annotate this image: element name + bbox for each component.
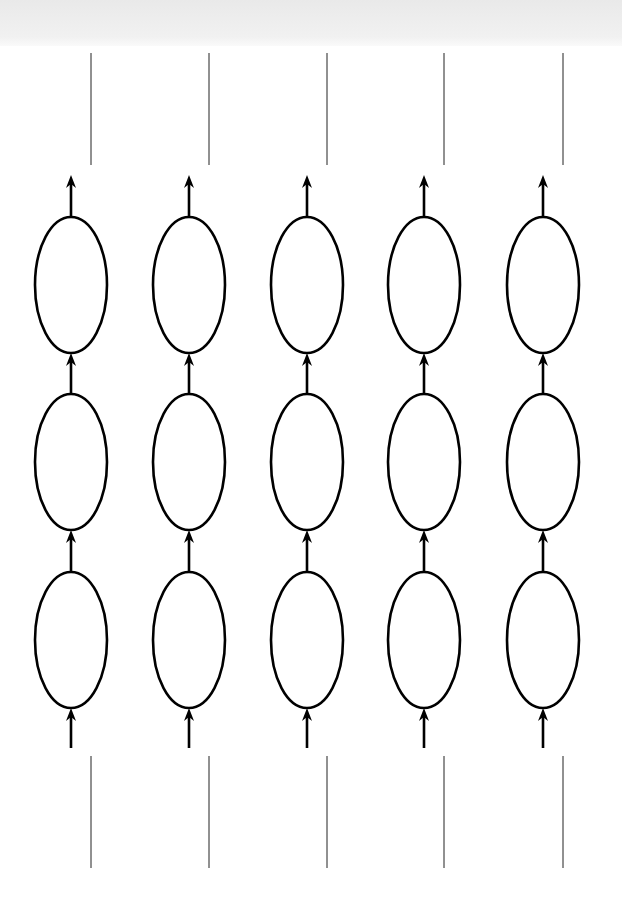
node-ellipse-col-1-row-2	[35, 394, 107, 530]
node-ellipse-col-4-row-2	[388, 394, 460, 530]
node-ellipse-col-1-row-1	[35, 217, 107, 353]
node-ellipse-col-5-row-2	[507, 394, 579, 530]
node-ellipse-col-2-row-3	[153, 572, 225, 708]
diagram-canvas	[0, 0, 622, 913]
node-ellipse-col-4-row-3	[388, 572, 460, 708]
node-ellipse-col-4-row-1	[388, 217, 460, 353]
node-ellipse-col-5-row-3	[507, 572, 579, 708]
node-ellipse-col-2-row-2	[153, 394, 225, 530]
node-ellipse-col-3-row-1	[271, 217, 343, 353]
node-ellipse-col-2-row-1	[153, 217, 225, 353]
node-ellipse-col-5-row-1	[507, 217, 579, 353]
node-ellipse-col-1-row-3	[35, 572, 107, 708]
node-ellipse-col-3-row-3	[271, 572, 343, 708]
node-ellipse-col-3-row-2	[271, 394, 343, 530]
